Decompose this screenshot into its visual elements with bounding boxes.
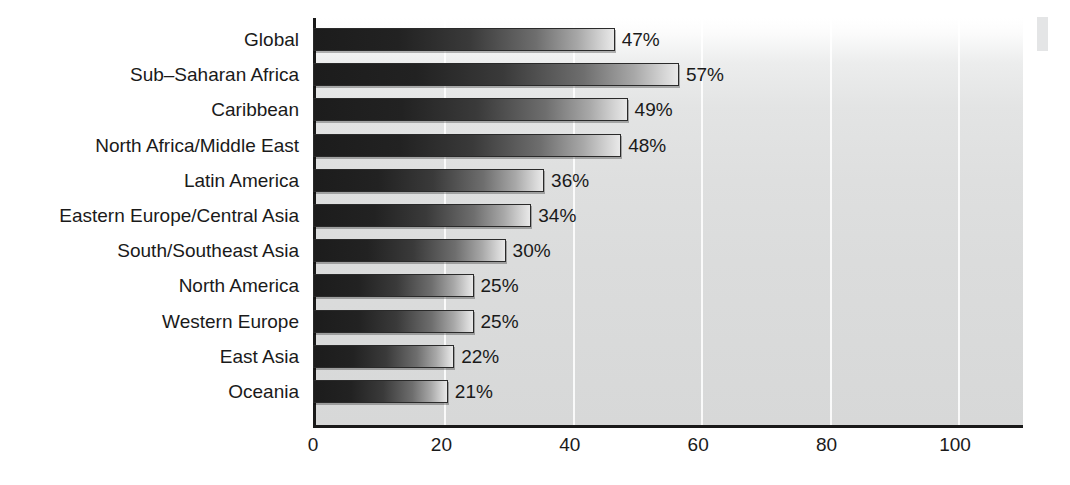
- bar-value-label: 25%: [474, 274, 519, 297]
- bar[interactable]: [313, 310, 474, 333]
- x-tick-label: 100: [939, 434, 971, 456]
- bar-row: 25%: [313, 310, 1020, 333]
- bar[interactable]: [313, 380, 448, 403]
- bar[interactable]: [313, 345, 454, 368]
- bar[interactable]: [313, 63, 679, 86]
- category-label: Global: [244, 28, 305, 51]
- chart-page: 47%57%49%48%36%34%30%25%25%22%21% Global…: [0, 0, 1070, 485]
- bar[interactable]: [313, 169, 544, 192]
- bar[interactable]: [313, 274, 474, 297]
- bar-value-label: 47%: [615, 28, 660, 51]
- bar[interactable]: [313, 28, 615, 51]
- bar-value-label: 21%: [448, 380, 493, 403]
- bar-value-label: 25%: [474, 310, 519, 333]
- bar-row: 49%: [313, 98, 1020, 121]
- bar-value-label: 48%: [621, 134, 666, 157]
- bar-value-label: 22%: [454, 345, 499, 368]
- bar-row: 57%: [313, 63, 1020, 86]
- category-label: East Asia: [220, 345, 305, 368]
- category-label: Oceania: [228, 380, 305, 403]
- category-label: Latin America: [184, 169, 305, 192]
- bar-row: 47%: [313, 28, 1020, 51]
- bar-series: 47%57%49%48%36%34%30%25%25%22%21%: [313, 18, 1020, 425]
- x-tick-label: 80: [816, 434, 837, 456]
- bar-row: 21%: [313, 380, 1020, 403]
- x-tick-label: 20: [431, 434, 452, 456]
- bar-row: 36%: [313, 169, 1020, 192]
- bar-value-label: 57%: [679, 63, 724, 86]
- category-label: North America: [179, 274, 305, 297]
- bar[interactable]: [313, 204, 531, 227]
- bar[interactable]: [313, 98, 628, 121]
- bar[interactable]: [313, 134, 621, 157]
- bar-value-label: 36%: [544, 169, 589, 192]
- category-label: Sub–Saharan Africa: [130, 63, 305, 86]
- bar-row: 48%: [313, 134, 1020, 157]
- bar-row: 22%: [313, 345, 1020, 368]
- category-axis-labels: GlobalSub–Saharan AfricaCaribbeanNorth A…: [0, 18, 305, 425]
- bar-row: 25%: [313, 274, 1020, 297]
- bar-row: 30%: [313, 239, 1020, 262]
- scan-artifact-mark: [1037, 17, 1048, 51]
- category-label: Caribbean: [211, 98, 305, 121]
- x-tick-label: 0: [308, 434, 319, 456]
- category-label: Western Europe: [162, 310, 305, 333]
- x-tick-label: 60: [688, 434, 709, 456]
- bar-value-label: 34%: [531, 204, 576, 227]
- category-label: South/Southeast Asia: [117, 239, 305, 262]
- bar-value-label: 49%: [628, 98, 673, 121]
- category-label: Eastern Europe/Central Asia: [59, 204, 305, 227]
- category-label: North Africa/Middle East: [95, 134, 305, 157]
- x-axis-tick-labels: 020406080100: [0, 434, 1070, 464]
- bar-value-label: 30%: [506, 239, 551, 262]
- x-tick-label: 40: [559, 434, 580, 456]
- bar[interactable]: [313, 239, 506, 262]
- bar-row: 34%: [313, 204, 1020, 227]
